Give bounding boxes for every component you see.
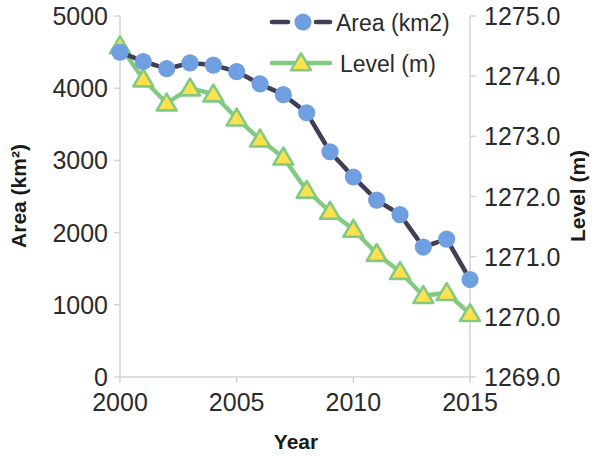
- x-axis-title: Year: [274, 430, 318, 453]
- y-axis-left-tick: 4000: [52, 74, 108, 102]
- y-axis-left-tick: 0: [94, 363, 108, 391]
- y-axis-left-title: Area (km²): [7, 144, 30, 248]
- legend-item-level: Level (m): [272, 51, 436, 77]
- y-axis-left-tick: 5000: [52, 2, 108, 30]
- data-point-marker: [415, 238, 432, 255]
- chart-legend: Area (km2)Level (m): [272, 10, 450, 77]
- data-point-marker: [391, 206, 408, 223]
- data-point-marker: [181, 54, 198, 71]
- series-level: [110, 36, 480, 321]
- data-point-marker: [438, 230, 455, 247]
- series-area: [111, 44, 478, 289]
- legend-item-area: Area (km2): [272, 10, 450, 36]
- y-axis-right-tick: 1270.0: [484, 303, 560, 331]
- data-point-marker: [111, 44, 128, 61]
- data-point-marker: [298, 104, 315, 121]
- dual-axis-line-chart: 010002000300040005000 1269.01270.01271.0…: [0, 0, 600, 456]
- x-axis-tick: 2005: [209, 388, 265, 416]
- x-axis-tick: 2010: [326, 388, 382, 416]
- y-axis-right-tick: 1272.0: [484, 183, 560, 211]
- y-axis-right-tick: 1275.0: [484, 2, 560, 30]
- y-axis-right-title: Level (m): [566, 150, 589, 242]
- x-axis-tick: 2015: [442, 388, 498, 416]
- y-axis-left-tick-labels: 010002000300040005000: [52, 2, 108, 391]
- data-point-marker: [275, 86, 292, 103]
- series-layer: [110, 36, 480, 321]
- data-point-marker: [180, 79, 200, 96]
- x-axis-tick-labels: 2000200520102015: [92, 388, 498, 416]
- data-point-marker: [205, 56, 222, 73]
- y-axis-left-tick: 3000: [52, 146, 108, 174]
- y-axis-right-tick: 1271.0: [484, 243, 560, 271]
- y-axis-right-tick: 1274.0: [484, 62, 560, 90]
- y-axis-right-tick: 1269.0: [484, 363, 560, 391]
- chart-container: 010002000300040005000 1269.01270.01271.0…: [0, 0, 600, 456]
- data-point-marker: [345, 168, 362, 185]
- y-axis-right-tick: 1273.0: [484, 122, 560, 150]
- data-point-marker: [461, 271, 478, 288]
- y-axis-right-tick-labels: 1269.01270.01271.01272.01273.01274.01275…: [484, 2, 560, 391]
- legend-label-area: Area (km2): [336, 10, 450, 36]
- data-point-marker: [321, 143, 338, 160]
- y-axis-left-tick: 1000: [52, 291, 108, 319]
- data-point-marker: [228, 63, 245, 80]
- data-point-marker: [135, 53, 152, 70]
- legend-label-level: Level (m): [340, 51, 436, 77]
- y-axis-left-tick: 2000: [52, 219, 108, 247]
- data-point-marker: [158, 60, 175, 77]
- data-point-marker: [251, 75, 268, 92]
- data-point-marker: [368, 192, 385, 209]
- x-axis-tick: 2000: [92, 388, 148, 416]
